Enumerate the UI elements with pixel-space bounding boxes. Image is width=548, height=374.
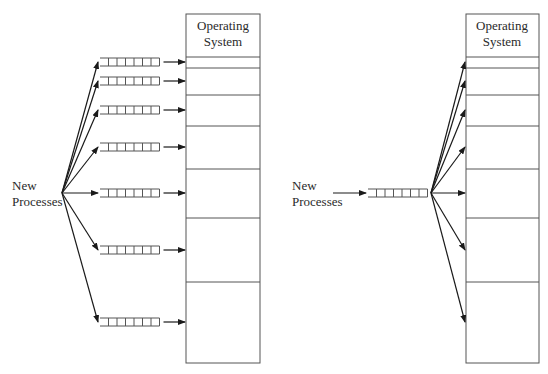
- partition-queue: [100, 106, 160, 114]
- queue-to-partition-arrow: [431, 147, 465, 193]
- right-os-label-1: Operating: [476, 18, 528, 33]
- left-processes-label: Processes: [12, 194, 63, 209]
- left-queues: [100, 58, 185, 326]
- partition-queue: [100, 77, 160, 85]
- single-queue-diagram: New Processes Operating System: [292, 14, 539, 363]
- left-fan-arrows: [62, 62, 98, 322]
- left-os-label-1: Operating: [197, 18, 249, 33]
- left-new-label: New: [12, 178, 37, 193]
- right-new-label: New: [292, 178, 317, 193]
- left-memory-column: [186, 14, 260, 363]
- memory-partition-diagram: New Processes Operating System New Proce…: [0, 0, 548, 374]
- process-to-queue-arrow: [62, 147, 98, 193]
- left-memory-box: [186, 14, 260, 363]
- partition-queue: [100, 143, 160, 151]
- process-to-queue-arrow: [62, 193, 98, 322]
- partition-queue: [100, 58, 160, 66]
- queue-to-partition-arrow: [431, 110, 465, 193]
- right-fan-arrows: [431, 62, 465, 322]
- left-os-label-2: System: [204, 34, 242, 49]
- process-to-queue-arrow: [62, 193, 98, 250]
- queue-to-partition-arrow: [431, 62, 465, 193]
- partition-queue: [100, 318, 160, 326]
- right-memory-box: [466, 14, 539, 363]
- process-to-queue-arrow: [62, 62, 98, 193]
- process-to-queue-arrow: [62, 110, 98, 193]
- single-input-queue: [368, 189, 428, 197]
- partition-queue: [100, 189, 160, 197]
- right-memory-column: [466, 14, 539, 363]
- process-to-queue-arrow: [62, 81, 98, 193]
- queue-to-partition-arrow: [431, 81, 465, 193]
- multiple-queue-diagram: New Processes Operating System: [12, 14, 260, 363]
- right-processes-label: Processes: [292, 194, 343, 209]
- partition-queue: [100, 246, 160, 254]
- right-os-label-2: System: [483, 34, 521, 49]
- queue-to-partition-arrow: [431, 193, 465, 250]
- input-queue: [333, 189, 428, 197]
- queue-to-partition-arrow: [431, 193, 465, 322]
